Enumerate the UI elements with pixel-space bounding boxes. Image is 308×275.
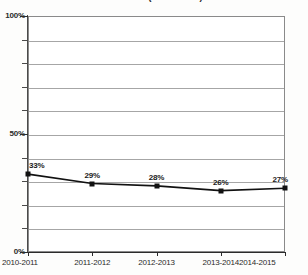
- y-axis-tick: [22, 205, 28, 206]
- chart-screenshot: Gráfico 1 (Gráfico 2.1) 0%50%100%2010-20…: [0, 0, 308, 275]
- x-axis-tick: [92, 252, 93, 256]
- data-point-marker: [26, 172, 31, 177]
- data-point-marker: [283, 186, 288, 191]
- data-point-label: 28%: [149, 173, 164, 182]
- y-axis-tick: [22, 181, 28, 182]
- data-point-marker: [90, 181, 95, 186]
- x-axis-tick: [157, 252, 158, 256]
- y-axis-tick: [22, 63, 28, 64]
- x-axis-tick: [221, 252, 222, 256]
- y-axis-label: 50%: [0, 129, 25, 138]
- data-point-marker: [154, 183, 159, 188]
- data-point-label: 33%: [29, 161, 44, 170]
- y-axis-tick: [22, 228, 28, 229]
- x-axis-label: 2012-2013: [138, 258, 174, 267]
- data-point-label: 29%: [85, 171, 100, 180]
- y-axis-label: 0%: [0, 247, 25, 256]
- y-axis-label: 100%: [0, 11, 25, 20]
- data-point-marker: [218, 188, 223, 193]
- y-axis-tick: [22, 110, 28, 111]
- y-axis-tick: [22, 87, 28, 88]
- data-point-label: 26%: [213, 178, 228, 187]
- x-axis-tick: [28, 252, 29, 256]
- y-axis-tick: [22, 158, 28, 159]
- x-axis-label: 2010-2011: [2, 258, 38, 267]
- x-axis-tick: [285, 252, 286, 256]
- series-line: [0, 0, 308, 275]
- data-point-label: 27%: [273, 175, 288, 184]
- y-axis-tick: [22, 40, 28, 41]
- x-axis-label: 2011-2012: [74, 258, 110, 267]
- x-axis-label: 2013-2014: [203, 258, 239, 267]
- x-axis-label: 2014-2015: [239, 258, 275, 267]
